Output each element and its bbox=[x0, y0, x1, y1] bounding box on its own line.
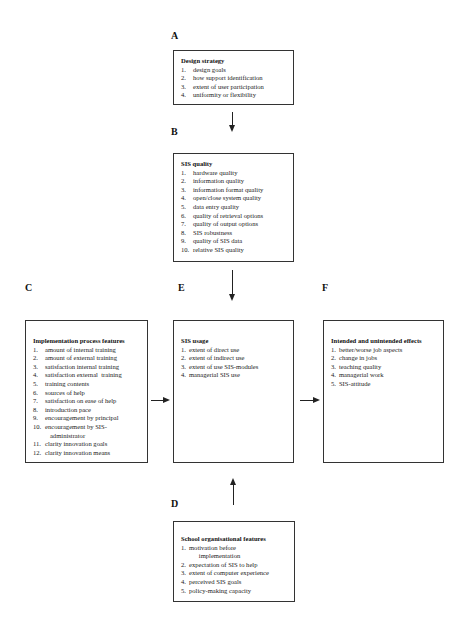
list-item: 1.hardware quality bbox=[181, 169, 286, 178]
label-b: B bbox=[171, 126, 178, 137]
label-c: C bbox=[25, 282, 32, 293]
arrow-line bbox=[233, 485, 234, 505]
list-item: 2.amount of external training bbox=[33, 354, 140, 363]
box-implementation-process-features: Implementation process features 1.amount… bbox=[25, 320, 148, 463]
list-item: 3.extent of use SIS-modules bbox=[181, 363, 286, 372]
box-intended-unintended-effects: Intended and unintended effects 1.better… bbox=[323, 320, 444, 463]
list-item: 1.better/worse job aspects bbox=[331, 346, 436, 355]
box-title: Intended and unintended effects bbox=[331, 337, 436, 346]
list-item: 2.change in jobs bbox=[331, 354, 436, 363]
box-title: Implementation process features bbox=[33, 337, 140, 346]
arrow-head-right-icon bbox=[163, 397, 170, 403]
list-item: 7.satisfaction on ease of help bbox=[33, 397, 140, 406]
list-item: 8.SIS robustness bbox=[181, 229, 286, 238]
box-sis-usage: SIS usage 1.extent of direct use 2.exten… bbox=[173, 320, 294, 463]
box-title: School organisational features bbox=[181, 535, 287, 544]
label-f: F bbox=[322, 282, 328, 293]
arrow-head-down-icon bbox=[229, 294, 235, 301]
list-item: 12.clarity innovation means bbox=[33, 449, 140, 458]
box-title: SIS quality bbox=[181, 160, 286, 169]
arrow-line bbox=[232, 270, 233, 294]
list-item: 3.satisfaction internal training bbox=[33, 363, 140, 372]
list-item: 10.encouragement by SIS- administrator bbox=[33, 423, 140, 440]
list-item: 1.amount of internal training bbox=[33, 346, 140, 355]
list-item: 3.information format quality bbox=[181, 186, 286, 195]
box-design-strategy: Design strategy 1.design goals 2.how sup… bbox=[173, 50, 294, 105]
list-item: 4.managerial SIS use bbox=[181, 371, 286, 380]
list-item: 5.data entry quality bbox=[181, 203, 286, 212]
list-item: 2.information quality bbox=[181, 177, 286, 186]
list-item: 2.expectation of SIS to help bbox=[181, 561, 287, 570]
arrow-line bbox=[151, 400, 163, 401]
box-title: SIS usage bbox=[181, 337, 286, 346]
item-list: 1.hardware quality 2.information quality… bbox=[181, 169, 286, 255]
box-school-organisational-features: School organisational features 1.motivat… bbox=[173, 521, 295, 602]
box-sis-quality: SIS quality 1.hardware quality 2.informa… bbox=[173, 153, 294, 262]
list-item: 3.extent of computer experience bbox=[181, 569, 287, 578]
item-list: 1.amount of internal training 2.amount o… bbox=[33, 346, 140, 458]
list-item: 9.encouragement by principal bbox=[33, 414, 140, 423]
list-item: 8.introduction pace bbox=[33, 406, 140, 415]
item-list: 1.motivation before implementation 2.exp… bbox=[181, 544, 287, 596]
arrow-head-right-icon bbox=[313, 397, 320, 403]
list-item: 3.teaching quality bbox=[331, 363, 436, 372]
list-item: 1.motivation before implementation bbox=[181, 544, 287, 561]
list-item: 5.training contents bbox=[33, 380, 140, 389]
item-list: 1.design goals 2.how support identificat… bbox=[181, 66, 286, 100]
list-item: 10.relative SIS quality bbox=[181, 246, 286, 255]
list-item: 5.SIS-attitude bbox=[331, 380, 436, 389]
list-item: 6.sources of help bbox=[33, 389, 140, 398]
list-item: 4.perceived SIS goals bbox=[181, 578, 287, 587]
list-item: 2.how support identification bbox=[181, 74, 286, 83]
arrow-head-down-icon bbox=[229, 125, 235, 132]
list-item: 11.clarity innovation goals bbox=[33, 440, 140, 449]
arrow-line bbox=[300, 400, 313, 401]
list-item: 6.quality of retrieval options bbox=[181, 212, 286, 221]
list-item: 4.uniformity or flexibility bbox=[181, 91, 286, 100]
item-list: 1.better/worse job aspects 2.change in j… bbox=[331, 346, 436, 389]
list-item: 2.extent of indirect use bbox=[181, 354, 286, 363]
list-item: 4.satisfaction external training bbox=[33, 371, 140, 380]
arrow-line bbox=[232, 112, 233, 125]
label-a: A bbox=[171, 30, 178, 41]
list-item: 4.open/close system quality bbox=[181, 194, 286, 203]
item-list: 1.extent of direct use 2.extent of indir… bbox=[181, 346, 286, 380]
list-item: 4.managerial work bbox=[331, 371, 436, 380]
box-title: Design strategy bbox=[181, 57, 286, 66]
label-e: E bbox=[178, 282, 185, 293]
list-item: 1.extent of direct use bbox=[181, 346, 286, 355]
list-item: 9.quality of SIS data bbox=[181, 237, 286, 246]
list-item: 7.quality of output options bbox=[181, 220, 286, 229]
arrow-head-up-icon bbox=[230, 478, 236, 485]
label-d: D bbox=[171, 498, 178, 509]
list-item: 5.policy-making capacity bbox=[181, 587, 287, 596]
list-item: 1.design goals bbox=[181, 66, 286, 75]
list-item: 3.extent of user participation bbox=[181, 83, 286, 92]
